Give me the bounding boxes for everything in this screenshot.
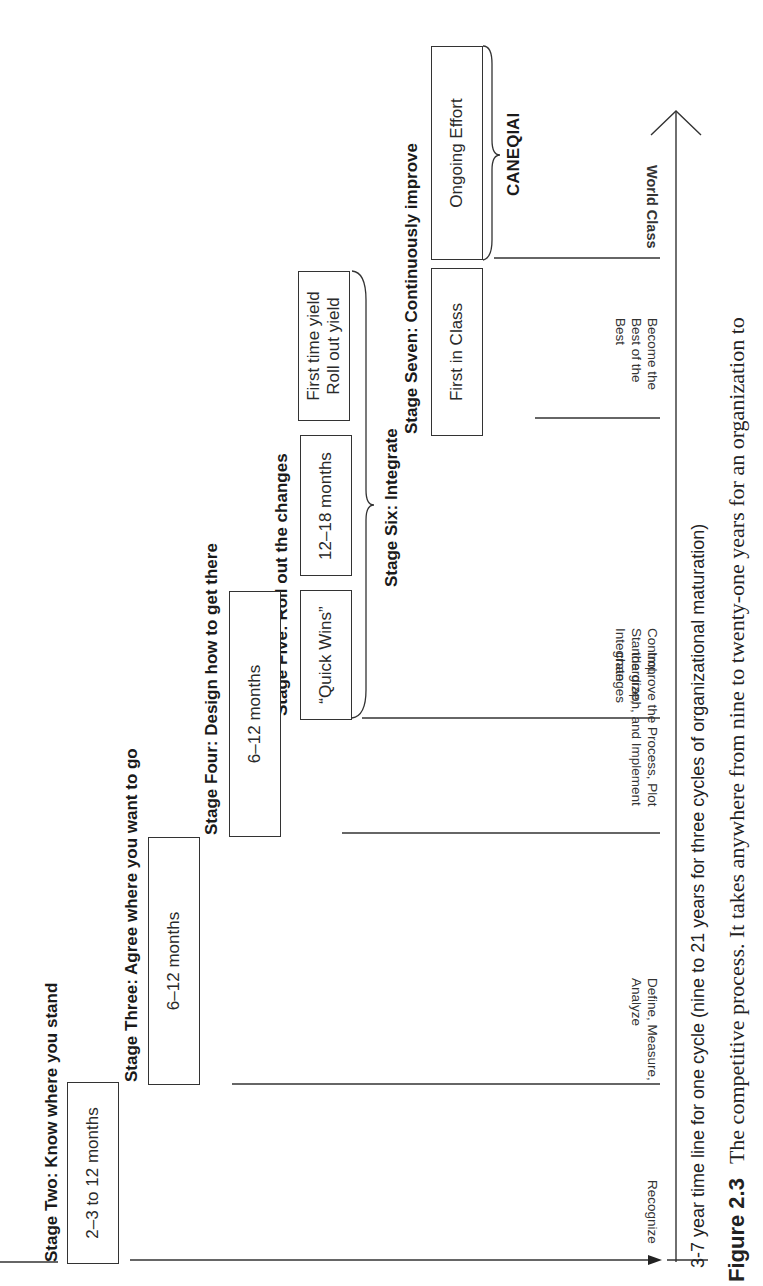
phase-line: Best of the bbox=[628, 318, 644, 390]
stage-two-title: Stage Two: Know where you stand bbox=[42, 983, 62, 1262]
quick-wins-label: “Quick Wins” bbox=[316, 606, 336, 703]
stage-four-duration: 6–12 months bbox=[245, 665, 265, 763]
phase-line: Define, Measure, bbox=[644, 978, 660, 1081]
stage-three-duration: 6–12 months bbox=[164, 912, 184, 1010]
figure-caption-text: The competitive process. It takes anywhe… bbox=[724, 317, 749, 1164]
phase-define-measure-analyze: Define, Measure, Analyze bbox=[628, 978, 660, 1081]
phase-line: Become the bbox=[644, 318, 660, 390]
figure-number: Figure 2.3 bbox=[724, 1178, 749, 1282]
stage-six-title: Stage Six: Integrate bbox=[382, 428, 402, 587]
phase-recognize: Recognize bbox=[644, 1180, 660, 1244]
stage-four-duration-box: 6–12 months bbox=[229, 591, 281, 837]
stage-seven-title: Stage Seven: Continuously improve bbox=[402, 143, 422, 434]
first-in-class-label: First in Class bbox=[447, 303, 467, 401]
phase-line: Analyze bbox=[628, 978, 644, 1081]
phase-line: Integrate bbox=[611, 628, 627, 704]
first-in-class-box: First in Class bbox=[431, 268, 483, 436]
phase-world-class: World Class bbox=[643, 165, 660, 249]
caneqiai-label: CANEQIAI bbox=[504, 113, 524, 196]
quick-wins-box: “Quick Wins” bbox=[300, 590, 352, 720]
phase-line: World Class bbox=[643, 165, 660, 249]
stage-three-title: Stage Three: Agree where you want to go bbox=[122, 748, 142, 1082]
stage-five-duration-box: 12–18 months bbox=[300, 435, 352, 576]
stage-two-duration-box: 2–3 to 12 months bbox=[67, 1082, 119, 1264]
roll-out-yield-label: Roll out yield bbox=[324, 297, 344, 394]
phase-line: Control, bbox=[644, 628, 660, 704]
timeline-caption: 3-7 year time line for one cycle (nine t… bbox=[688, 524, 709, 1268]
ongoing-effort-box: Ongoing Effort bbox=[431, 46, 483, 260]
stage-three-duration-box: 6–12 months bbox=[148, 837, 200, 1085]
figure-caption: Figure 2.3The competitive process. It ta… bbox=[724, 317, 750, 1282]
ongoing-effort-label: Ongoing Effort bbox=[447, 98, 467, 207]
stage-two-duration: 2–3 to 12 months bbox=[83, 1107, 103, 1238]
phase-control: Control, Standardize, Integrate bbox=[611, 628, 660, 704]
stage-five-duration: 12–18 months bbox=[316, 452, 336, 560]
stage-four-title: Stage Four: Design how to get there bbox=[202, 543, 222, 835]
first-time-yield-label: First time yield bbox=[304, 291, 324, 401]
yield-labels: First time yield Roll out yield bbox=[304, 291, 343, 401]
phase-become-best: Become the Best of the Best bbox=[611, 318, 660, 390]
phase-line: Standardize, bbox=[628, 628, 644, 704]
phase-recognize-line: Recognize bbox=[644, 1180, 660, 1244]
yield-box: First time yield Roll out yield bbox=[298, 271, 350, 421]
phase-line: Best bbox=[611, 318, 627, 390]
